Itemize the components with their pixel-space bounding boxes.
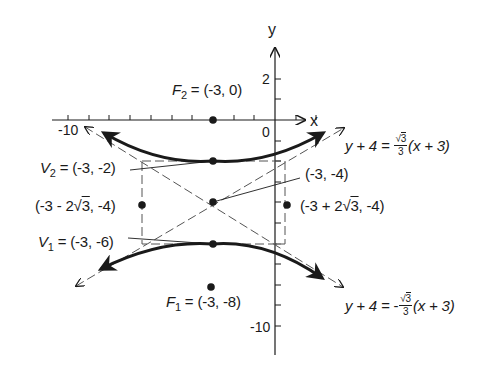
- x-axis-label: x: [310, 113, 318, 129]
- focus-f2-label: F2 = (-3, 0): [172, 82, 242, 97]
- co-vertex-left-point: [138, 201, 146, 209]
- fraction-sqrt3-over-3: √33: [394, 134, 407, 157]
- x-ticks: [68, 115, 316, 120]
- fraction-sqrt3-over-3: √33: [399, 294, 412, 317]
- center-point: [209, 198, 217, 206]
- vertex-v1-label: V1 = (-3, -6): [38, 234, 114, 249]
- y-ticks: [275, 79, 281, 326]
- co-vertex-left-label: (-3 - 2√3, -4): [35, 198, 115, 213]
- vertex-v2-label: V2 = (-3, -2): [40, 160, 116, 175]
- center-label: (-3, -4): [305, 166, 348, 181]
- y-tick-label-minus-10: -10: [250, 320, 270, 334]
- focus-f2-point: [209, 116, 217, 124]
- vertex-v2-point: [209, 157, 217, 165]
- origin-label: 0: [262, 125, 270, 139]
- hyperbola-lower-branch: [101, 244, 322, 278]
- x-tick-label-minus-10: -10: [58, 123, 78, 137]
- co-vertex-right-point: [283, 201, 291, 209]
- asymptote-upper-equation: y + 4 = √33(x + 3): [345, 136, 450, 159]
- y-tick-label-2: 2: [262, 72, 270, 86]
- co-vertex-right-label: (-3 + 2√3, -4): [300, 198, 384, 213]
- focus-f1-label: F1 = (-3, -8): [166, 294, 241, 309]
- hyperbola-figure: x y 0 -10 2 -10 F2 = (-3, 0) V2 = (-3, -…: [0, 0, 502, 371]
- vertex-v1-point: [209, 240, 217, 248]
- asymptote-lower-equation: y + 4 = -√33(x + 3): [345, 296, 454, 319]
- y-axis-label: y: [268, 22, 276, 38]
- focus-f1-point: [207, 283, 215, 291]
- hyperbola-upper-branch: [104, 133, 323, 161]
